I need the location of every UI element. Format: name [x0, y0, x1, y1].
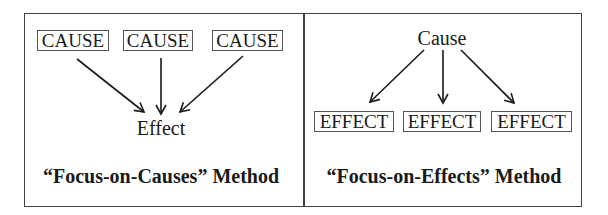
arrow-cause-to-effect1 — [370, 50, 424, 102]
arrow-cause1-to-effect — [77, 59, 144, 112]
arrow-cause3-to-effect — [180, 56, 243, 112]
arrows-layer — [0, 0, 608, 215]
arrow-cause-to-effect3 — [461, 50, 514, 103]
